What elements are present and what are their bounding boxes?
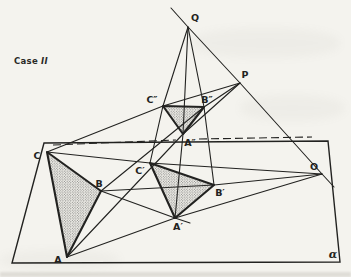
point-label-C: C — [34, 150, 41, 161]
plane-alpha-label: α — [329, 248, 338, 261]
point-label-C2: C″ — [146, 94, 158, 105]
point-label-A2: A″ — [184, 137, 196, 148]
point-label-Q: Q — [191, 12, 199, 23]
point-label-O: O — [310, 161, 318, 172]
point-label-B: B — [95, 178, 102, 189]
point-label-P: P — [242, 69, 249, 80]
line-O-C1-C — [47, 152, 322, 174]
point-label-A: A — [54, 254, 62, 265]
geometry-figure: CaseII QPOC″B″A″CBAC′B′A′α — [0, 0, 351, 277]
axis-dashed-right — [199, 137, 312, 139]
point-label-A1: A′ — [173, 221, 183, 232]
point-label-C1: C′ — [135, 165, 145, 176]
point-label-B1: B′ — [215, 187, 225, 198]
diagram-svg: QPOC″B″A″CBAC′B′A′α — [0, 0, 351, 277]
point-label-B2: B″ — [201, 94, 213, 105]
triangle-ABC — [47, 152, 101, 257]
